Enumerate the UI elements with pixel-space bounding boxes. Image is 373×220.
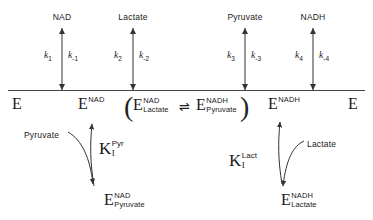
branch-arrow-pyruvate-binding: [68, 132, 93, 184]
branch-arrow-pyruvate-release: [91, 124, 94, 186]
species-free-enzyme-right: E: [348, 96, 358, 112]
inhibition-constant-ki-pyr-scripts: PyrI: [112, 140, 124, 159]
arrow-stem-nad: [62, 28, 63, 90]
species-e-nadh-pyruvate: ENADHPyruvate: [196, 97, 237, 115]
rate-constant-k3-sub: 3: [231, 55, 235, 62]
inhibition-constant-ki-lact-base: K: [229, 151, 241, 170]
arrow-stem-lactate: [133, 28, 134, 90]
species-e-nad-pyruvate-base: E: [104, 191, 114, 208]
species-e-nad-pyruvate: ENADPyruvate: [104, 192, 145, 210]
species-e-nadh-pyruvate-sup: NADH: [206, 97, 236, 105]
branch-arrow-lactate-binding: [283, 141, 304, 186]
species-e-nadh-scripts: NADH: [278, 96, 300, 105]
species-e-nad-lactate-base: E: [133, 96, 143, 113]
inhibition-constant-ki-pyr-base: K: [99, 139, 111, 158]
species-e-nadh-lactate-sup: NADH: [291, 192, 316, 200]
rate-constant-k-minus-1-sub: -1: [72, 55, 78, 62]
rate-constant-k-minus-4-sub: -4: [323, 55, 329, 62]
inhibitor-label-pyruvate: Pyruvate: [24, 130, 59, 140]
arrow-stem-pyruvate: [245, 28, 246, 90]
species-free-enzyme-left: E: [12, 96, 22, 112]
rate-constant-k-minus-4: k-4: [319, 50, 329, 62]
species-e-nad-scripts: NAD: [88, 96, 104, 105]
species-e-nadh-lactate-sub: Lactate: [291, 201, 316, 209]
rate-constant-k-minus-2-sub: -2: [143, 55, 149, 62]
species-e-nadh-lactate-base: E: [281, 191, 291, 208]
inhibition-constant-ki-pyr-sub: I: [112, 149, 124, 159]
top-label-nad: NAD: [53, 12, 72, 22]
rate-constant-k4-sub: 4: [299, 55, 303, 62]
species-e-nadh-pyruvate-base: E: [196, 96, 206, 113]
species-e-nad: ENAD: [78, 96, 104, 112]
species-e-nad-lactate-sub: Lactate: [143, 106, 168, 114]
reaction-scheme-diagram: NAD Lactate Pyruvate NADH k1 k-1 k2 k-2 …: [0, 0, 373, 220]
species-e-nadh-sup: NADH: [278, 96, 300, 104]
species-e-nad-sup: NAD: [88, 96, 104, 104]
rate-constant-k1-sub: 1: [48, 55, 52, 62]
inhibitor-label-lactate: Lactate: [307, 139, 336, 149]
arrow-stem-nadh: [313, 28, 314, 90]
species-e-nadh-pyruvate-sub: Pyruvate: [206, 106, 236, 114]
species-e-nadh-lactate: ENADHLactate: [281, 192, 317, 210]
rate-constant-k3: k3: [227, 50, 235, 62]
paren-close: ): [240, 93, 249, 121]
rate-constant-k4: k4: [295, 50, 303, 62]
species-e-nadh: ENADH: [268, 96, 300, 112]
species-e-nad-lactate-sup: NAD: [143, 97, 168, 105]
species-e-nad-base: E: [78, 95, 88, 112]
rate-constant-k-minus-1: k-1: [68, 50, 78, 62]
rate-constant-k2-sub: 2: [118, 55, 122, 62]
paren-open: (: [124, 93, 133, 121]
inhibition-constant-ki-pyr: KPyrI: [99, 140, 124, 160]
top-label-nadh: NADH: [301, 12, 326, 22]
species-e-nad-pyruvate-sub: Pyruvate: [114, 201, 144, 209]
inhibition-constant-ki-lact-sub: I: [242, 161, 257, 171]
species-e-nadh-pyruvate-scripts: NADHPyruvate: [206, 97, 236, 114]
reaction-pathway-baseline: [8, 90, 365, 91]
species-e-nad-pyruvate-scripts: NADPyruvate: [114, 192, 144, 209]
species-free-enzyme-left-base: E: [12, 95, 22, 112]
top-label-pyruvate: Pyruvate: [227, 12, 262, 22]
rate-constant-k2: k2: [114, 50, 122, 62]
equilibrium-arrow-central-complex: ⇌: [179, 100, 190, 113]
species-e-nad-lactate-scripts: NADLactate: [143, 97, 168, 114]
top-label-lactate: Lactate: [118, 12, 147, 22]
rate-constant-k-minus-3-sub: -3: [255, 55, 261, 62]
species-e-nad-pyruvate-sup: NAD: [114, 192, 144, 200]
rate-constant-k-minus-3: k-3: [251, 50, 261, 62]
rate-constant-k-minus-2: k-2: [139, 50, 149, 62]
species-e-nad-lactate: ENADLactate: [133, 97, 169, 115]
inhibition-constant-ki-lact: KLactI: [229, 152, 257, 172]
branch-arrow-lactate-release: [279, 122, 282, 184]
species-free-enzyme-right-base: E: [348, 95, 358, 112]
rate-constant-k1: k1: [44, 50, 52, 62]
inhibition-constant-ki-lact-scripts: LactI: [242, 152, 257, 171]
species-e-nadh-lactate-scripts: NADHLactate: [291, 192, 316, 209]
species-e-nadh-base: E: [268, 95, 278, 112]
